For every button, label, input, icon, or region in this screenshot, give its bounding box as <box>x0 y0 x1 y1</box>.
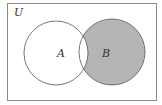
set-b-label: B <box>101 47 110 60</box>
set-a-label: A <box>56 47 65 60</box>
venn-diagram: U A B <box>0 0 162 105</box>
universe-label: U <box>14 6 24 19</box>
